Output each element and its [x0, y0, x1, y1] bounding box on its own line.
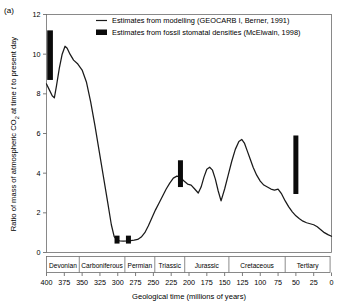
svg-text:Ratio of mass of atmospheric C: Ratio of mass of atmospheric CO2 at time…: [9, 37, 20, 232]
period-label-carboniferous: Carboniferous: [81, 262, 123, 269]
model-estimate-curve: [47, 46, 332, 241]
x-tick-label-100: 100: [254, 278, 266, 287]
y-axis-title-suffix: to present day: [9, 37, 18, 87]
x-tick-label-25: 25: [310, 278, 318, 287]
x-tick-label-250: 250: [147, 278, 159, 287]
y-tick-label-4: 4: [37, 169, 41, 178]
x-tick-label-50: 50: [292, 278, 300, 287]
legend-label-fossil: Estimates from fossil stomatal densities…: [112, 28, 301, 37]
fossil-stomatal-bars: [47, 30, 298, 243]
x-tick-label-400: 400: [41, 278, 53, 287]
legend-square-swatch: [96, 30, 107, 36]
x-axis-ticks: 4003753503253002752502252001751501251007…: [41, 273, 334, 287]
figure-container: (a) Ratio of mass of atmospheric CO2 at …: [0, 0, 350, 304]
fossil-range-bar: [126, 236, 131, 244]
x-tick-label-0: 0: [330, 278, 334, 287]
period-label-tertiary: Tertiary: [297, 262, 319, 270]
fossil-range-bar: [47, 30, 53, 80]
period-label-permian: Permian: [128, 262, 153, 269]
fossil-range-bar: [115, 236, 120, 244]
x-axis-title: Geological time (millions of years): [132, 292, 246, 301]
x-tick-label-225: 225: [165, 278, 177, 287]
x-tick-label-375: 375: [58, 278, 70, 287]
legend-label-modelling: Estimates from modelling (GEOCARB I, Ber…: [112, 16, 289, 25]
period-label-cretaceous: Cretaceous: [240, 262, 274, 269]
plot-frame: [47, 15, 332, 253]
y-axis-title: Ratio of mass of atmospheric CO2 at time…: [9, 37, 20, 232]
geological-period-band: DevonianCarboniferousPermianTriassicJura…: [47, 257, 331, 273]
co2-geological-time-chart: Ratio of mass of atmospheric CO2 at time…: [0, 0, 350, 304]
y-axis-title-middle: at time: [9, 89, 18, 116]
fossil-range-bar: [293, 135, 298, 194]
fossil-range-bar: [178, 160, 183, 187]
y-tick-label-8: 8: [37, 89, 41, 98]
x-tick-label-75: 75: [274, 278, 282, 287]
x-tick-label-200: 200: [183, 278, 195, 287]
x-tick-label-275: 275: [130, 278, 142, 287]
x-tick-label-300: 300: [112, 278, 124, 287]
period-label-triassic: Triassic: [159, 262, 182, 269]
x-tick-label-150: 150: [219, 278, 231, 287]
y-tick-label-12: 12: [33, 10, 41, 19]
x-tick-label-350: 350: [76, 278, 88, 287]
period-label-devonian: Devonian: [49, 262, 77, 269]
y-axis-title-prefix: Ratio of mass of atmospheric CO: [9, 119, 18, 231]
panel-label: (a): [4, 6, 14, 15]
period-label-jurassic: Jurassic: [195, 262, 220, 269]
x-tick-label-125: 125: [236, 278, 248, 287]
x-tick-label-325: 325: [94, 278, 106, 287]
y-tick-label-0: 0: [37, 248, 41, 257]
y-tick-label-6: 6: [37, 129, 41, 138]
x-tick-label-175: 175: [201, 278, 213, 287]
y-tick-label-2: 2: [37, 208, 41, 217]
y-tick-label-10: 10: [33, 50, 41, 59]
legend: Estimates from modelling (GEOCARB I, Ber…: [96, 16, 301, 37]
y-axis-ticks: 024681012: [33, 10, 47, 257]
